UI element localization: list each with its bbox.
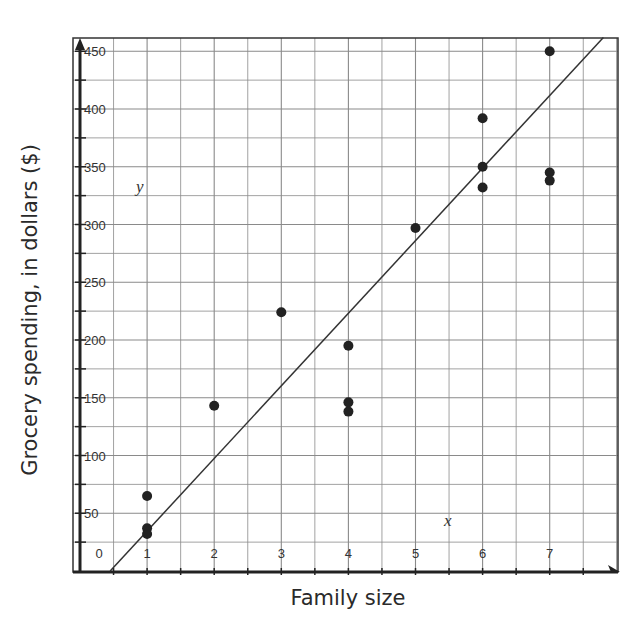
data-point [209, 401, 219, 411]
plot-frame [73, 38, 618, 572]
x-tick-label: 4 [345, 546, 352, 561]
y-tick-label: 350 [84, 160, 106, 175]
y-tick-label: 450 [84, 44, 106, 59]
data-point [478, 113, 488, 123]
data-point [411, 223, 421, 233]
y-tick-label: 250 [84, 275, 106, 290]
data-point [478, 162, 488, 172]
grid-lines [73, 38, 618, 572]
data-point [343, 407, 353, 417]
y-axis-title-container: Grocery spending, in dollars ($) [0, 0, 60, 632]
y-tick-label: 50 [84, 506, 98, 521]
x-tick-label: 1 [143, 546, 150, 561]
y-axis-title: Grocery spending, in dollars ($) [18, 144, 42, 476]
y-tick-label: 150 [84, 391, 106, 406]
y-tick-label: 200 [84, 333, 106, 348]
x-axis-title: Family size [291, 586, 406, 610]
data-point [142, 491, 152, 501]
x-tick-label: 7 [546, 546, 553, 561]
data-point [142, 529, 152, 539]
x-tick-label: 5 [412, 546, 419, 561]
y-tick-label: 100 [84, 449, 106, 464]
y-tick-label: 300 [84, 218, 106, 233]
data-point [478, 183, 488, 193]
data-point [276, 307, 286, 317]
x-variable-label: x [443, 511, 452, 530]
data-point [545, 176, 555, 186]
data-point [545, 46, 555, 56]
x-tick-label: 2 [211, 546, 218, 561]
y-tick-label: 400 [84, 102, 106, 117]
x-tick-label: 3 [278, 546, 285, 561]
x-tick-label: 0 [95, 546, 102, 561]
data-point [343, 397, 353, 407]
data-point [343, 341, 353, 351]
scatter-chart: 50100150200250300350400450 01234567 y x [0, 0, 644, 632]
y-variable-label: y [134, 177, 144, 196]
trend-line [110, 37, 603, 571]
x-tick-label: 6 [479, 546, 486, 561]
